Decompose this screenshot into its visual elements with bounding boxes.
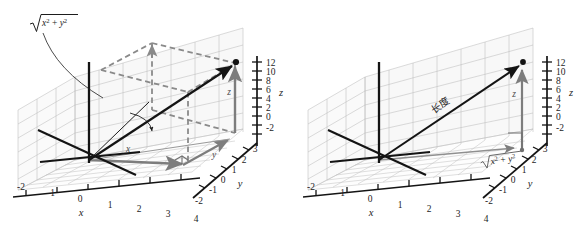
- right-x-tick-0: -2: [307, 182, 315, 192]
- left-z-axis: 12 10 8 6 4 2 0 -2 z: [252, 56, 283, 146]
- right-x-tick-6: 4: [484, 214, 489, 224]
- left-x-axis-label: x: [78, 207, 84, 218]
- figure-root: -2 -1 0 1 2 3 4 x -2 -1: [0, 0, 580, 235]
- right-z-tick-7: -2: [556, 123, 564, 133]
- left-y-tick-0: -2: [195, 196, 203, 206]
- right-z-axis-label: z: [568, 87, 573, 98]
- right-x-tick-2: 0: [368, 194, 373, 204]
- right-x-tick-4: 2: [427, 204, 432, 214]
- right-z-tick-6: 0: [556, 112, 561, 122]
- left-diagram-svg: -2 -1 0 1 2 3 4 x -2 -1: [0, 0, 290, 235]
- left-x-tick-6: 4: [194, 214, 199, 224]
- left-x-tick-2: 0: [78, 194, 83, 204]
- left-y-component-label: y: [211, 150, 217, 160]
- left-x-tick-4: 2: [137, 204, 142, 214]
- right-x-tick-3: 1: [398, 200, 403, 210]
- left-y-tick-1: -1: [209, 185, 217, 195]
- right-diagram-panel: -2 -1 0 1 2 3 4 x -2 -1: [290, 0, 580, 235]
- left-y-tick-4: 2: [242, 155, 247, 165]
- right-y-axis-label: y: [527, 178, 533, 189]
- left-callout-sqrt-label: x2 + y2: [30, 15, 78, 32]
- left-callout-expression: x2 + y2: [41, 17, 67, 28]
- right-y-tick-2: 0: [511, 175, 516, 185]
- left-diagram-panel: -2 -1 0 1 2 3 4 x -2 -1: [0, 0, 290, 235]
- left-z-component-label: z: [226, 87, 231, 97]
- left-y-tick-3: 1: [232, 165, 237, 175]
- left-z-tick-6: 0: [266, 112, 271, 122]
- right-z-component-label: z: [511, 89, 516, 99]
- right-z-axis: 12 10 8 6 4 2 0 -2 z: [542, 56, 573, 146]
- left-x-tick-5: 3: [166, 209, 171, 219]
- right-base-sqrt-expression: x2 + y2: [489, 152, 516, 167]
- right-y-tick-4: 2: [532, 155, 537, 165]
- left-y-tick-2: 0: [221, 175, 226, 185]
- left-z-tick-7: -2: [266, 123, 274, 133]
- left-terminal-point: [233, 59, 239, 65]
- left-x-tick-0: -2: [17, 182, 25, 192]
- right-terminal-point: [520, 59, 526, 65]
- right-x-tick-5: 3: [456, 209, 461, 219]
- left-y-axis-label: y: [237, 178, 243, 189]
- right-y-tick-0: -2: [485, 196, 493, 206]
- left-x-tick-3: 1: [108, 200, 113, 210]
- right-x-tick-1: -1: [337, 188, 345, 198]
- right-x-axis-label: x: [368, 207, 374, 218]
- right-y-tick-1: -1: [499, 185, 507, 195]
- left-x-tick-1: -1: [47, 188, 55, 198]
- left-z-axis-label: z: [278, 87, 283, 98]
- right-y-tick-3: 1: [522, 165, 527, 175]
- left-x-component-label: x: [125, 144, 131, 154]
- right-diagram-svg: -2 -1 0 1 2 3 4 x -2 -1: [290, 0, 580, 235]
